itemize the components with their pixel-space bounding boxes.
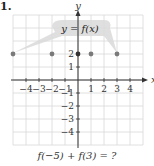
- x-tick-label: 2: [101, 84, 107, 94]
- data-point: [11, 52, 16, 57]
- y-tick-label: 2: [68, 49, 74, 59]
- y-tick-label: −3: [61, 114, 75, 124]
- x-tick-label: 1: [88, 84, 94, 94]
- data-point: [89, 52, 94, 57]
- y-tick-label: 1: [68, 62, 74, 72]
- function-graph: y = f(x)xy−4−3−2−1123421−1−2−3−4: [0, 0, 154, 150]
- y-axis-label: y: [74, 0, 81, 11]
- x-axis-arrow-icon: [142, 78, 148, 83]
- y-tick-label: −1: [61, 88, 74, 98]
- x-axis-label: x: [151, 74, 154, 85]
- x-tick-label: 4: [127, 84, 133, 94]
- x-tick-label: −2: [45, 84, 58, 94]
- data-point: [76, 52, 81, 57]
- x-tick-label: −3: [32, 84, 46, 94]
- x-tick-label: −4: [19, 84, 33, 94]
- y-tick-label: −2: [61, 101, 74, 111]
- data-point: [115, 52, 120, 57]
- data-point: [50, 52, 55, 57]
- x-tick-label: 3: [114, 84, 120, 94]
- question-text: f(−5) + f(3) = ?: [0, 150, 154, 161]
- function-label: y = f(x): [60, 23, 99, 34]
- y-tick-label: −4: [61, 127, 75, 137]
